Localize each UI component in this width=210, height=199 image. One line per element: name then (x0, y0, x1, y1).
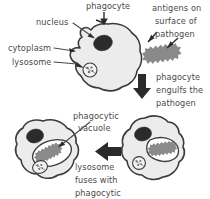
label-fuses-line3: phagocytic (75, 188, 121, 198)
phagocytosis-diagram: phagocyte nucleus cytoplasm lysosome ant… (0, 0, 210, 199)
stage-3-vacuole-cell (16, 120, 79, 178)
label-antigens-line1: antigens on (152, 3, 201, 13)
label-engulf-line2: engulfs the (156, 85, 203, 95)
stage-2-engulfing-cell (122, 116, 185, 180)
label-vacuole-line1: phagocytic (73, 111, 119, 121)
label-cytoplasm: cytoplasm (8, 43, 51, 53)
label-phagocyte: phagocyte (86, 1, 130, 11)
engulf-step-arrow (133, 74, 151, 99)
phagocyte-cell-body (70, 23, 141, 90)
engulfing-cell-lysosome (133, 157, 146, 170)
pathogen-body (142, 44, 181, 64)
label-fuses-line1: lysosome (75, 162, 114, 172)
lysosome-organelle (83, 63, 97, 77)
label-phagocytic-vacuole: phagocytic vacuole (73, 111, 119, 133)
fusion-step-arrow (95, 142, 121, 161)
label-fuses-line2: fuses with (75, 175, 118, 185)
label-nucleus: nucleus (36, 17, 68, 27)
label-antigens-line2: surface of (155, 16, 198, 26)
label-engulf-line3: pathogen (156, 98, 196, 108)
label-antigens: antigens on surface of pathogen (152, 3, 201, 39)
label-lysosome: lysosome (12, 57, 51, 67)
label-antigens-line3: pathogen (155, 29, 195, 39)
label-lysosome-fuses: lysosome fuses with phagocytic (75, 162, 121, 198)
label-engulf-step: phagocyte engulfs the pathogen (156, 72, 203, 108)
label-vacuole-line2: vacuole (78, 123, 111, 133)
stage-1-phagocyte (70, 23, 141, 90)
label-engulf-line1: phagocyte (156, 72, 200, 82)
